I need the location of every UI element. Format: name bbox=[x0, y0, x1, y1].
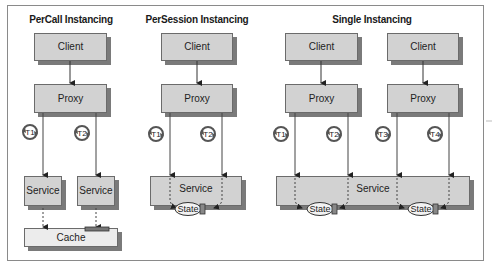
instancing-diagram: PerCall Instancing PerSession Instancing… bbox=[0, 0, 492, 269]
thread-label-t3: T3 bbox=[378, 130, 387, 139]
client-label: Client bbox=[58, 42, 84, 52]
service-label: Service bbox=[356, 184, 389, 194]
service-label: Service bbox=[26, 186, 59, 196]
proxy-label: Proxy bbox=[410, 94, 436, 104]
single-proxy-box-1: Proxy bbox=[285, 84, 358, 113]
client-label: Client bbox=[410, 42, 436, 52]
service-label: Service bbox=[179, 184, 212, 194]
single-service-box: Service bbox=[276, 176, 470, 206]
thread-label-t1: T1 bbox=[151, 130, 160, 139]
client-label: Client bbox=[309, 42, 335, 52]
proxy-label: Proxy bbox=[309, 94, 335, 104]
percall-cache-box: Cache bbox=[24, 228, 118, 247]
thread-label-t1: T1 bbox=[25, 128, 34, 137]
single-proxy-box-2: Proxy bbox=[387, 84, 459, 113]
persession-service-box: Service bbox=[150, 176, 242, 206]
cache-label: Cache bbox=[57, 233, 86, 243]
thread-label-t2: T2 bbox=[329, 130, 338, 139]
persession-client-box: Client bbox=[161, 33, 233, 61]
proxy-label: Proxy bbox=[58, 94, 84, 104]
percall-service-box-1: Service bbox=[24, 176, 62, 206]
title-single: Single Instancing bbox=[332, 14, 411, 25]
state-label: State bbox=[309, 204, 330, 214]
title-percall: PerCall Instancing bbox=[29, 14, 113, 25]
client-label: Client bbox=[184, 42, 210, 52]
percall-service-box-2: Service bbox=[77, 176, 115, 206]
state-label: State bbox=[177, 204, 198, 214]
thread-label-t1: T1 bbox=[276, 130, 285, 139]
percall-client-box: Client bbox=[34, 33, 107, 61]
single-client-box-2: Client bbox=[387, 33, 459, 61]
thread-label-t2: T2 bbox=[203, 130, 212, 139]
persession-proxy-box: Proxy bbox=[161, 84, 233, 113]
state-label: State bbox=[410, 204, 431, 214]
thread-label-t2: T2 bbox=[77, 129, 86, 138]
title-persession: PerSession Instancing bbox=[145, 14, 248, 25]
percall-proxy-box: Proxy bbox=[34, 84, 107, 113]
proxy-label: Proxy bbox=[184, 94, 210, 104]
single-client-box-1: Client bbox=[285, 33, 358, 61]
service-label: Service bbox=[79, 186, 112, 196]
thread-label-t4: T4 bbox=[430, 130, 439, 139]
